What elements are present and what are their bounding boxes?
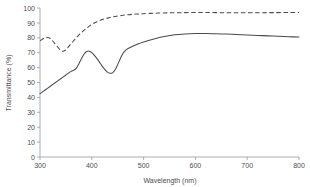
y-tick-label: 100: [23, 5, 35, 12]
transmittance-spectrum-chart: 0102030405060708090100 30040050060070080…: [0, 0, 310, 187]
y-tick-label: 60: [27, 64, 35, 71]
x-tick-label: 500: [138, 162, 150, 169]
y-tick-label: 50: [27, 79, 35, 86]
y-tick-label: 20: [27, 124, 35, 131]
chart-background: [0, 0, 310, 187]
y-tick-label: 40: [27, 94, 35, 101]
y-tick-label: 30: [27, 109, 35, 116]
x-axis-title: Wavelength (nm): [143, 177, 196, 185]
x-tick-label: 300: [34, 162, 46, 169]
y-tick-label: 80: [27, 34, 35, 41]
y-tick-label: 70: [27, 49, 35, 56]
x-tick-label: 400: [86, 162, 98, 169]
y-tick-label: 90: [27, 20, 35, 27]
chart-canvas: 0102030405060708090100 30040050060070080…: [0, 0, 310, 187]
x-tick-label: 600: [190, 162, 202, 169]
y-tick-label: 10: [27, 139, 35, 146]
y-axis-title: Transmittance (%): [5, 55, 13, 112]
x-tick-label: 700: [241, 162, 253, 169]
x-tick-label: 800: [293, 162, 305, 169]
y-tick-label: 0: [31, 154, 35, 161]
